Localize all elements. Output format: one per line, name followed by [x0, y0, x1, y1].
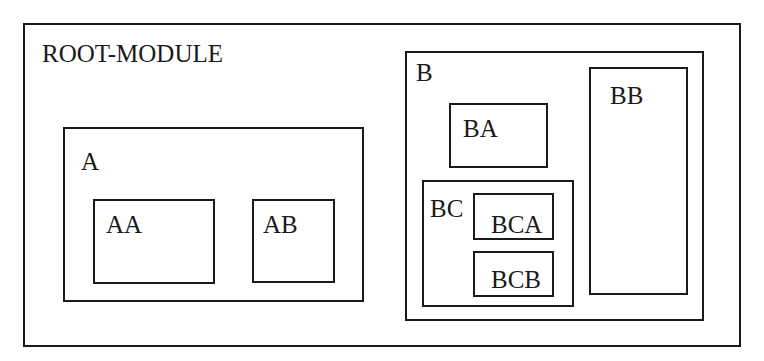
module-aa-label: AA	[106, 212, 142, 237]
module-bca-label: BCA	[491, 212, 542, 237]
module-bc-label: BC	[430, 196, 463, 221]
root-module-label: ROOT-MODULE	[42, 41, 223, 66]
module-bcb-label: BCB	[491, 267, 541, 292]
module-b-label: B	[416, 60, 433, 85]
module-ab-label: AB	[263, 212, 298, 237]
module-a-label: A	[81, 149, 99, 174]
module-ba-label: BA	[463, 116, 498, 141]
module-bb-label: BB	[610, 83, 643, 108]
